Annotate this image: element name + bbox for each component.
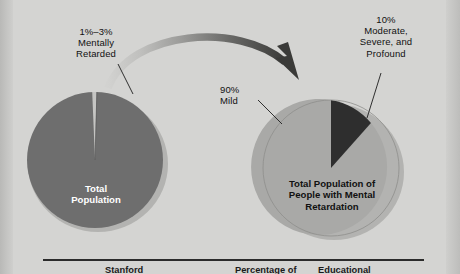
curved-arrow [108, 37, 299, 88]
callout-mild: 90% Mild [220, 84, 264, 106]
callout-mr-line3: Retarded [56, 48, 136, 59]
caption-column-2: Educational [318, 265, 371, 274]
pie-total-population [27, 92, 163, 228]
caption-row: Stanford Percentage of Educational [43, 265, 424, 274]
figure-container: 1%–3% Mentally Retarded 90% Mild 10% Mod… [0, 0, 460, 274]
callout-msp-line2: Moderate, [338, 25, 434, 36]
caption-divider-rule [43, 259, 424, 261]
right-pie-label-line3: Retardation [262, 201, 402, 212]
callout-mentally-retarded: 1%–3% Mentally Retarded [56, 26, 136, 60]
right-pie-center-label: Total Population of People with Mental R… [262, 178, 402, 212]
leader-line-mentally-retarded [118, 64, 133, 94]
caption-column-1: Percentage of [235, 265, 296, 274]
callout-mr-line2: Mentally [56, 37, 136, 48]
callout-mild-line1: 90% [220, 84, 264, 95]
left-pie-label-line2: Population [46, 194, 146, 205]
callout-msp-line1: 10% [338, 14, 434, 25]
right-pie-label-line2: People with Mental [262, 189, 402, 200]
callout-mr-line1: 1%–3% [56, 26, 136, 37]
left-pie-center-label: Total Population [46, 183, 146, 206]
right-pie-label-line1: Total Population of [262, 178, 402, 189]
curved-arrow-head [276, 42, 299, 80]
left-pie-label-line1: Total [46, 183, 146, 194]
caption-column-0: Stanford [105, 265, 143, 274]
callout-moderate-severe-profound: 10% Moderate, Severe, and Profound [338, 14, 434, 59]
callout-mild-line2: Mild [220, 95, 264, 106]
leader-line-moderate-severe-profound [367, 73, 381, 118]
callout-msp-line3: Severe, and [338, 36, 434, 47]
callout-msp-line4: Profound [338, 48, 434, 59]
